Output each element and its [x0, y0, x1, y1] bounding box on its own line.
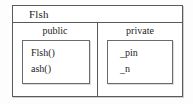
class-box: Flsh public Flsh() ash() private _pin _n [12, 5, 183, 97]
public-member-item: Flsh() [31, 47, 55, 59]
class-title-row: Flsh [13, 6, 182, 23]
private-member-box: _pin _n [107, 40, 173, 84]
compartment-private: private _pin _n [98, 23, 182, 96]
compartment-private-label: private [98, 25, 182, 37]
diagram-canvas: Flsh public Flsh() ash() private _pin _n [0, 0, 193, 104]
class-name-label: Flsh [29, 8, 49, 21]
compartment-public-label: public [13, 25, 97, 37]
public-member-box: Flsh() ash() [22, 40, 90, 84]
public-member-item: ash() [31, 63, 51, 75]
compartment-public: public Flsh() ash() [13, 23, 98, 96]
private-member-item: _n [120, 63, 130, 75]
class-body: public Flsh() ash() private _pin _n [13, 23, 182, 96]
private-member-item: _pin [120, 47, 138, 59]
